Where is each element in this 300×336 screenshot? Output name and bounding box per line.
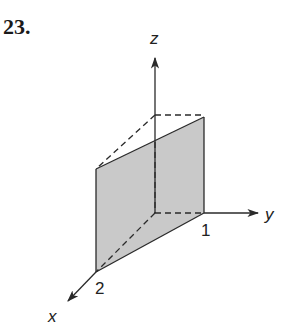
x-intercept-label: 2 xyxy=(95,279,104,298)
y-axis-label: y xyxy=(264,205,275,224)
z-axis-label: z xyxy=(149,29,159,48)
3d-axes-diagram: z y x 1 2 xyxy=(0,0,300,336)
y-intercept-label: 1 xyxy=(201,221,210,240)
x-axis-label: x xyxy=(47,307,57,326)
shaded-plane xyxy=(96,117,204,272)
x-axis xyxy=(68,272,96,301)
